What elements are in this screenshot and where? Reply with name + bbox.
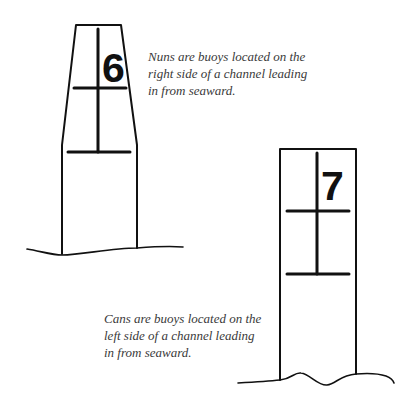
can-caption-line: left side of a channel leading [104,327,261,344]
can-caption-line: in from seaward. [104,344,261,361]
nun-caption-line: Nuns are buoys located on the [148,48,307,65]
can-caption-line: Cans are buoys located on the [104,310,261,327]
nun-caption: Nuns are buoys located on the right side… [148,48,307,99]
nun-caption-line: right side of a channel leading [148,65,307,82]
can-number: 7 [321,163,344,209]
can-caption: Cans are buoys located on the left side … [104,310,261,361]
can-waterline [238,373,394,385]
can-buoy [238,149,394,385]
nun-number: 6 [102,45,125,91]
nun-caption-line: in from seaward. [148,82,307,99]
nun-waterline [27,247,183,255]
